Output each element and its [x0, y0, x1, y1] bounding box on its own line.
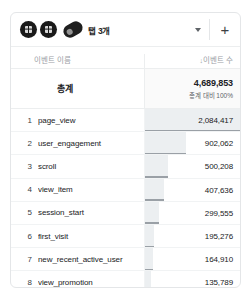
row-value-cell: 299,555 [144, 202, 240, 224]
row-bar [145, 248, 153, 270]
row-index: 2 [11, 139, 38, 148]
row-bar-baseline [145, 130, 240, 132]
table-row[interactable]: 8view_promotion135,789 [11, 271, 240, 288]
screen-root: 탭 3개 + 이벤트 이름 ↓이벤트 수 총계 4,689,853 총계 대비 … [0, 0, 252, 303]
row-index: 5 [11, 208, 38, 217]
row-event-count: 902,062 [205, 139, 233, 148]
row-index: 8 [11, 278, 38, 287]
row-event-name[interactable]: page_view [38, 116, 144, 125]
row-event-name[interactable]: first_visit [38, 232, 144, 241]
totals-value-cell: 4,689,853 총계 대비 100% [144, 69, 240, 108]
totals-row: 총계 4,689,853 총계 대비 100% [11, 68, 240, 109]
row-event-name[interactable]: scroll [38, 162, 144, 171]
add-comparison-button[interactable]: + [210, 13, 240, 46]
row-value-cell: 164,910 [144, 248, 240, 270]
row-event-count: 407,636 [205, 185, 233, 194]
row-index: 3 [11, 162, 38, 171]
row-event-count: 500,208 [205, 162, 233, 171]
column-header-event-count-label: 이벤트 수 [203, 56, 233, 65]
totals-label: 총계 [11, 82, 144, 95]
row-bar-baseline [145, 222, 159, 224]
row-event-name[interactable]: user_engagement [38, 139, 144, 148]
row-index: 1 [11, 116, 38, 125]
row-index: 4 [11, 185, 38, 194]
column-header-event-name[interactable]: 이벤트 이름 [11, 54, 144, 68]
row-index: 7 [11, 255, 38, 264]
table-header-row: 이벤트 이름 ↓이벤트 수 [11, 46, 240, 68]
table-row[interactable]: 6first_visit195,276 [11, 225, 240, 248]
row-bar [145, 132, 186, 154]
row-event-count: 135,789 [205, 278, 233, 287]
row-event-count: 299,555 [205, 208, 233, 217]
totals-subtext: 총계 대비 100% [189, 90, 233, 100]
row-bar [145, 271, 151, 288]
table-row[interactable]: 4view_item407,636 [11, 179, 240, 202]
row-event-count: 2,084,417 [198, 116, 233, 125]
row-event-count: 164,910 [205, 255, 233, 264]
segment-chip-2-icon[interactable] [40, 21, 57, 38]
row-value-cell: 2,084,417 [144, 109, 240, 131]
tab-count-label: 탭 3개 [88, 24, 110, 36]
table-body: 1page_view2,084,4172user_engagement902,0… [11, 109, 240, 288]
row-value-cell: 195,276 [144, 225, 240, 247]
column-header-event-count[interactable]: ↓이벤트 수 [144, 54, 240, 68]
row-bar-baseline [145, 246, 154, 248]
row-value-cell: 902,062 [144, 132, 240, 154]
row-bar-baseline [145, 153, 186, 155]
row-bar [145, 179, 164, 201]
row-bar [145, 202, 159, 224]
row-bar [145, 225, 154, 247]
row-bar-baseline [145, 199, 164, 201]
row-value-cell: 500,208 [144, 155, 240, 177]
row-value-cell: 407,636 [144, 179, 240, 201]
chevron-down-icon [195, 28, 201, 32]
card-toolbar: 탭 3개 + [11, 13, 240, 46]
table-row[interactable]: 1page_view2,084,417 [11, 109, 240, 132]
row-event-name[interactable]: view_promotion [38, 278, 144, 287]
row-bar-baseline [145, 269, 153, 271]
table-row[interactable]: 5session_start299,555 [11, 202, 240, 225]
table-row[interactable]: 7new_recent_active_user164,910 [11, 248, 240, 271]
table-row[interactable]: 2user_engagement902,062 [11, 132, 240, 155]
totals-value: 4,689,853 [194, 78, 233, 88]
row-bar [145, 155, 168, 177]
chevron-down-button[interactable] [187, 13, 209, 46]
row-event-name[interactable]: new_recent_active_user [38, 255, 144, 264]
events-report-card: 탭 3개 + 이벤트 이름 ↓이벤트 수 총계 4,689,853 총계 대비 … [10, 12, 241, 288]
table-row[interactable]: 3scroll500,208 [11, 155, 240, 178]
row-value-cell: 135,789 [144, 271, 240, 288]
tab-pill-icon[interactable] [61, 19, 85, 40]
row-event-name[interactable]: session_start [38, 208, 144, 217]
row-event-count: 195,276 [205, 232, 233, 241]
segment-chip-1-icon[interactable] [20, 21, 37, 38]
row-event-name[interactable]: view_item [38, 185, 144, 194]
row-bar-baseline [145, 176, 168, 178]
row-index: 6 [11, 232, 38, 241]
